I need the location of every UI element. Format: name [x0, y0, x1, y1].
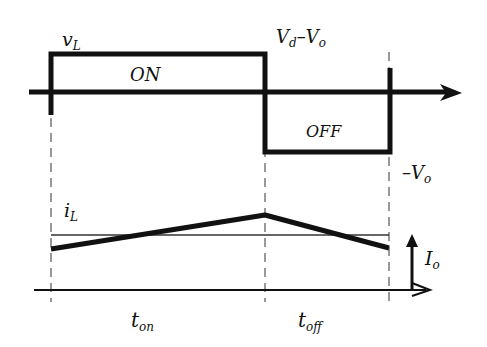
voltage-label: vL — [62, 30, 81, 52]
current-waveform — [51, 215, 389, 249]
vo-main: –V — [297, 26, 319, 47]
current-label-sub: L — [70, 210, 78, 224]
vd-main: V — [276, 26, 289, 47]
negative-level-label: –Vo — [402, 164, 431, 185]
neg-vo-main: –V — [402, 162, 424, 183]
output-current-label: Io — [425, 249, 440, 271]
neg-vo-sub: o — [424, 172, 431, 186]
waveform-diagram: vL ON Vd–Vo OFF –Vo iL Io ton toff — [0, 0, 487, 347]
io-sub: o — [433, 258, 440, 272]
on-label: ON — [130, 66, 161, 84]
ton-sub: on — [139, 320, 154, 334]
toff-main: t — [298, 308, 306, 332]
output-current-arrow-icon — [406, 234, 418, 290]
toff-sub: off — [306, 320, 322, 334]
current-label: iL — [64, 201, 78, 223]
io-main: I — [425, 247, 433, 269]
vd-sub: d — [289, 36, 297, 50]
ton-main: t — [131, 308, 139, 332]
ton-label: ton — [131, 310, 154, 333]
voltage-label-main: v — [62, 28, 73, 50]
positive-level-label: Vd–Vo — [276, 28, 326, 49]
off-label: OFF — [306, 124, 341, 140]
voltage-axis — [29, 84, 462, 101]
time-axis — [34, 283, 430, 296]
voltage-label-sub: L — [73, 39, 81, 53]
vo-sub: o — [319, 36, 326, 50]
toff-label: toff — [298, 310, 322, 333]
